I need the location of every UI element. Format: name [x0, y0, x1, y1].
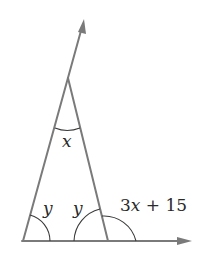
bottom-left-angle-arc — [30, 215, 50, 241]
triangle-diagram: x y y 3x + 15 — [0, 0, 209, 259]
bottom-left-angle-label: y — [42, 198, 53, 218]
bottom-right-interior-angle-label: y — [72, 198, 83, 218]
baseline-arrowhead-icon — [177, 237, 192, 245]
exterior-angle-label: 3x + 15 — [120, 195, 187, 215]
ray-arrowhead-icon — [78, 19, 86, 34]
apex-angle-label: x — [62, 131, 72, 151]
